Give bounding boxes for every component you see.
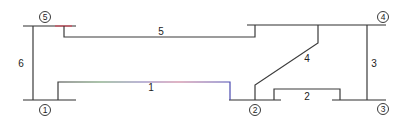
bus-2-label: 2 bbox=[253, 105, 258, 115]
bus-1-label: 1 bbox=[43, 105, 48, 115]
line-1-label: 1 bbox=[148, 82, 154, 93]
line-6-label: 6 bbox=[18, 58, 24, 69]
bus-4-label: 4 bbox=[381, 12, 386, 22]
line-1 bbox=[58, 82, 230, 100]
line-2-label: 2 bbox=[304, 91, 310, 102]
power-system-diagram: 1 2 3 4 5 6 5 1 2 3 4 bbox=[0, 0, 407, 122]
bus-2-marker: 2 bbox=[250, 105, 261, 116]
bus-5-marker: 5 bbox=[40, 12, 51, 23]
line-4-label: 4 bbox=[304, 53, 310, 64]
bus-4-marker: 4 bbox=[378, 12, 389, 23]
bus-3-marker: 3 bbox=[378, 104, 389, 115]
bus-5-label: 5 bbox=[43, 12, 48, 22]
line-3-label: 3 bbox=[371, 58, 377, 69]
line-5-label: 5 bbox=[158, 26, 164, 37]
bus-3-label: 3 bbox=[381, 104, 386, 114]
bus-1-marker: 1 bbox=[40, 105, 51, 116]
